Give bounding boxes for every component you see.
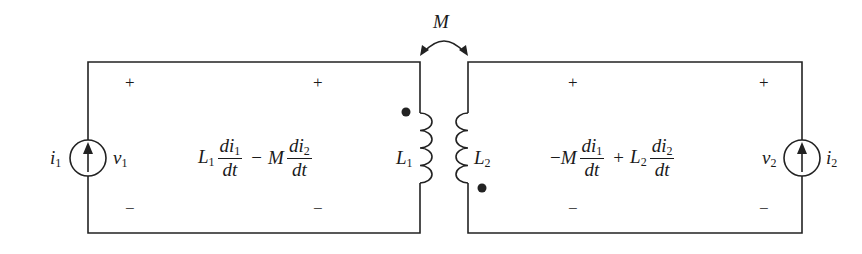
mutual-coupling-arc xyxy=(424,41,464,52)
dot-l2 xyxy=(478,184,487,193)
voltage-v1-label: v1 xyxy=(113,148,127,169)
left-voltage-equation: L1 di1dt − M di2dt xyxy=(198,136,315,179)
right-voltage-equation: − M di1dt + L2 di2dt xyxy=(550,136,677,179)
plus-sign-v1: + xyxy=(125,74,135,91)
dot-l1 xyxy=(402,108,411,117)
inductor-l1-coil xyxy=(420,113,432,183)
mutual-inductance-label: M xyxy=(433,12,449,31)
plus-sign-left-eq: + xyxy=(313,74,323,91)
source-2-arrow-icon xyxy=(797,142,807,154)
plus-sign-right-eq: + xyxy=(568,74,578,91)
minus-sign-v1: − xyxy=(125,200,135,217)
plus-sign-v2: + xyxy=(759,74,769,91)
current-i1-label: i1 xyxy=(50,148,61,169)
source-1-arrow-icon xyxy=(83,142,93,154)
inductor-l1-label: L1 xyxy=(396,148,413,169)
mutual-arrow-left-icon xyxy=(420,45,429,56)
current-i2-label: i2 xyxy=(826,148,837,169)
minus-sign-v2: − xyxy=(759,200,769,217)
minus-sign-left-eq: − xyxy=(313,200,323,217)
inductor-l2-label: L2 xyxy=(474,148,491,169)
mutual-arrow-right-icon xyxy=(459,45,468,56)
inductor-l2-coil xyxy=(456,113,468,183)
minus-sign-right-eq: − xyxy=(568,200,578,217)
voltage-v2-label: v2 xyxy=(762,148,776,169)
